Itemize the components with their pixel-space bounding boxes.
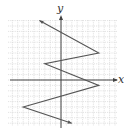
grid-lines [8, 20, 117, 126]
x-axis-label: x [118, 73, 124, 86]
graph [0, 0, 124, 134]
y-axis-label: y [57, 2, 63, 15]
